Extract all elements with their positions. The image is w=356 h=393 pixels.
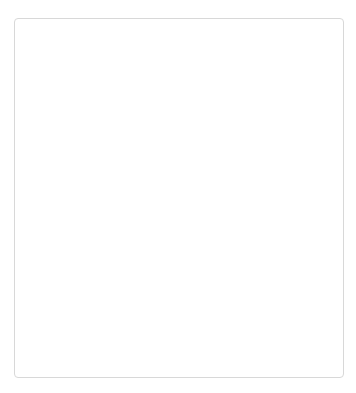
figure-canvas [0,0,356,393]
figure-root [0,0,356,393]
